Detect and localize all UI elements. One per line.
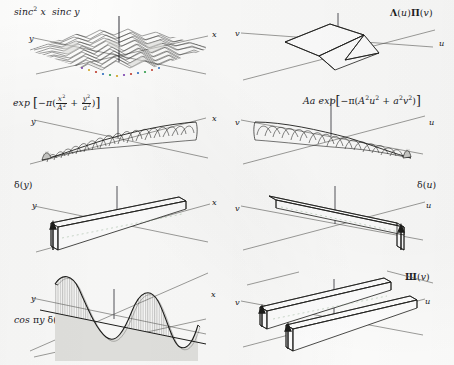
- panel-sinc-squared-sinc: sinc2 x sinc y y x: [0, 0, 227, 92]
- panel-cos-delta: cos πy δ(x) y x: [0, 265, 227, 365]
- plot-gaussian-ridge-xy: [0, 92, 227, 180]
- panel-delta-y: δ(y) y x: [0, 180, 227, 265]
- sample-dots: [81, 67, 160, 77]
- plot-sinc-mesh: [0, 0, 227, 92]
- plot-delta-blade-u: [227, 180, 454, 265]
- panel-triangle-rect-prism: Λ(u)Π(v) v u: [227, 0, 454, 92]
- plot-gaussian-ridge-uv: [227, 92, 454, 180]
- panel-gaussian-xy: exp [−π(x2A2 + y2a2)] y x: [0, 92, 227, 180]
- plot-hatched-cosine-wall: [0, 265, 227, 365]
- panel-shah-v: Ш(v) v u: [227, 265, 454, 365]
- panel-gaussian-uv: Aa exp[−π(A2u2 + a2v2)] v u: [227, 92, 454, 180]
- figure-page: sinc2 x sinc y y x: [0, 0, 454, 365]
- plot-delta-blade-y: [0, 180, 227, 265]
- panel-delta-u: δ(u) v u: [227, 180, 454, 265]
- plot-triangular-prism: [227, 0, 454, 92]
- plot-double-delta-blade: [227, 265, 454, 365]
